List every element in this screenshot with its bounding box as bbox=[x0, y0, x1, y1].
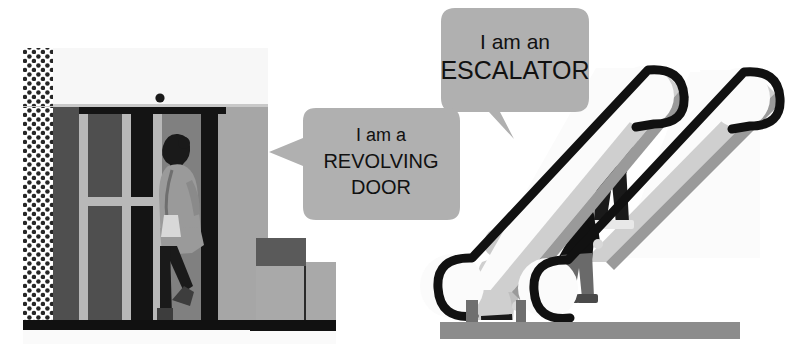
canopy-edge bbox=[23, 104, 268, 107]
person-leg-back bbox=[160, 246, 172, 316]
person-shoe-back bbox=[157, 308, 173, 320]
door-wing-dark-1 bbox=[131, 114, 153, 320]
rider-middle-shoe-right bbox=[577, 294, 598, 303]
shoulder-bag bbox=[161, 215, 181, 237]
wall-left-dark bbox=[53, 107, 79, 320]
revolving-door bbox=[79, 114, 218, 320]
step-top bbox=[256, 238, 306, 266]
step-base-shadow bbox=[250, 320, 336, 331]
revolving-door-bubble-line-2: REVOLVING bbox=[323, 150, 438, 172]
escalator-floor bbox=[440, 322, 740, 339]
dotted-wall-upper bbox=[23, 48, 53, 106]
illustration-canvas: I am an ESCALATOR I am a REVOLVING DOOR bbox=[0, 0, 790, 356]
building-ground-strip bbox=[23, 320, 268, 330]
door-mullion-2 bbox=[122, 114, 131, 320]
door-wing-dark-2 bbox=[201, 114, 218, 320]
rider-top-shoe-right bbox=[612, 220, 634, 229]
door-mullion-1 bbox=[79, 114, 88, 320]
building-floor-shadow bbox=[23, 330, 336, 344]
step-mid-right bbox=[306, 262, 336, 320]
door-rail-horizontal-2 bbox=[131, 197, 153, 206]
door-rail-horizontal-1 bbox=[88, 197, 131, 206]
person-hair-bun bbox=[178, 137, 190, 149]
escalator-column-far bbox=[516, 300, 526, 324]
escalator-column-near bbox=[466, 300, 478, 324]
ceiling-light-icon bbox=[155, 93, 164, 102]
canopy bbox=[23, 48, 268, 106]
step-edge-line bbox=[304, 266, 306, 320]
rider-middle-hand bbox=[593, 239, 603, 249]
scene-svg: I am an ESCALATOR I am a REVOLVING DOOR bbox=[0, 0, 790, 356]
revolving-door-bubble-line-1: I am a bbox=[356, 125, 407, 145]
step-mid-left bbox=[256, 266, 306, 320]
dotted-wall-lower bbox=[23, 107, 53, 320]
escalator-bubble-line-1: I am an bbox=[480, 30, 550, 53]
escalator-bubble-line-2: ESCALATOR bbox=[440, 56, 589, 84]
door-header-beam bbox=[79, 107, 226, 114]
revolving-door-bubble-line-3: DOOR bbox=[351, 176, 411, 198]
